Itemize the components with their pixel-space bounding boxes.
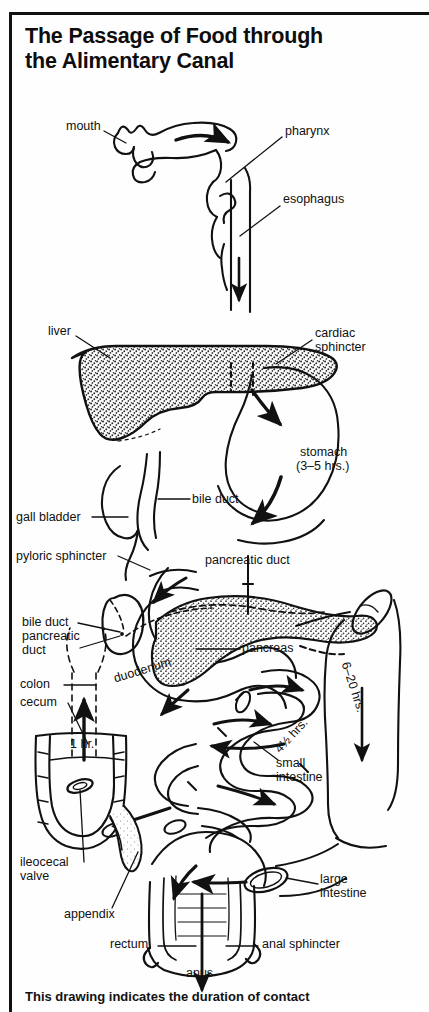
label-esophagus: esophagus <box>283 192 344 206</box>
label-stomach: stomach <box>300 445 347 459</box>
label-small-intestine: small <box>276 756 305 770</box>
label-liver: liver <box>48 324 71 338</box>
label-large-intestine: large <box>320 872 348 886</box>
figure-caption: This drawing indicates the duration of c… <box>25 989 405 1004</box>
label-stomach-time: (3–5 hrs.) <box>296 459 350 473</box>
label-pancreatic-duct-2-line2: duct <box>22 643 46 657</box>
label-cardiac-sphincter: cardiac <box>315 326 355 340</box>
label-ileocecal-valve: ileocecal <box>20 855 69 869</box>
label-pancreatic-duct-2: pancreatic <box>22 629 80 643</box>
label-pancreatic-duct: pancreatic duct <box>205 553 290 567</box>
label-anal-sphincter: anal sphincter <box>262 937 340 951</box>
label-pharynx: pharynx <box>285 124 329 138</box>
label-cecum-time: 1 hr. <box>70 737 94 751</box>
label-pancreas: pancreas <box>242 641 293 655</box>
label-pyloric-sphincter: pyloric sphincter <box>16 549 106 563</box>
label-rectum: rectum <box>110 937 148 951</box>
label-large-intestine-line2: intestine <box>320 886 367 900</box>
label-small-intestine-line2: intestine <box>276 770 323 784</box>
label-cecum: cecum <box>20 695 57 709</box>
label-appendix: appendix <box>64 907 115 921</box>
label-bile-duct-2: bile duct <box>22 615 69 629</box>
label-colon: colon <box>20 677 50 691</box>
label-ileocecal-valve-line2: valve <box>20 869 49 883</box>
label-anus: anus <box>186 966 213 980</box>
label-cardiac-sphincter-line2: sphincter <box>315 340 366 354</box>
label-mouth: mouth <box>66 119 101 133</box>
label-gall-bladder: gall bladder <box>16 510 81 524</box>
label-bile-duct: bile duct <box>192 492 239 506</box>
